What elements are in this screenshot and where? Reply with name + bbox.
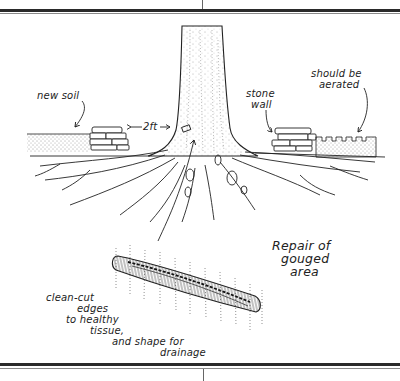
cut-note-line: edges bbox=[46, 303, 206, 314]
cut-note-label: clean-cut edges to healthy tissue, and s… bbox=[46, 292, 206, 358]
stone-wall-label-line: wall bbox=[246, 99, 275, 110]
new-soil-mound bbox=[27, 134, 90, 152]
cut-note-line: and shape for bbox=[46, 336, 206, 347]
aerated-arrow bbox=[358, 88, 367, 132]
new-soil-arrow bbox=[75, 101, 84, 127]
aerated-label: should be aerated bbox=[311, 68, 362, 90]
cut-note-line: drainage bbox=[46, 347, 206, 358]
illustration-page: new soil 2ft stone wall should be aerate… bbox=[0, 0, 400, 381]
distance-label: 2ft bbox=[143, 121, 157, 132]
stone-wall-left bbox=[90, 127, 129, 150]
aerated-soil-mound bbox=[316, 137, 376, 157]
stone-wall-arrow bbox=[266, 110, 272, 132]
roots bbox=[35, 150, 375, 222]
stone-wall-label-line: stone bbox=[246, 88, 275, 99]
cut-note-line: to healthy bbox=[46, 314, 206, 325]
figure-title-line: area bbox=[272, 265, 330, 278]
tree-trunk bbox=[148, 26, 258, 156]
cut-note-line: clean-cut bbox=[46, 292, 206, 303]
figure-title: Repair of gouged area bbox=[272, 239, 330, 278]
stone-wall-right bbox=[272, 128, 316, 151]
stone-wall-label: stone wall bbox=[246, 88, 275, 110]
new-soil-label: new soil bbox=[37, 90, 79, 101]
cut-note-line: tissue, bbox=[46, 325, 206, 336]
aerated-label-line: aerated bbox=[311, 79, 362, 90]
aerated-label-line: should be bbox=[311, 68, 362, 79]
